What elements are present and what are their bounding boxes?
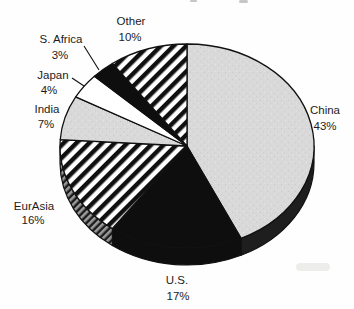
slice-label-india-pct: 7% <box>38 118 55 130</box>
scan-shadow-smudge <box>296 263 330 271</box>
slice-label-eurasia: EurAsia <box>14 200 55 212</box>
cropped-text-remnant-left <box>190 0 197 2</box>
slice-label-japan: Japan <box>37 69 68 81</box>
slice-label-japan-pct: 4% <box>41 84 58 96</box>
slice-label-us: U.S. <box>166 274 188 286</box>
slice-label-other: Other <box>117 15 146 27</box>
slice-label-china-pct: 43% <box>313 120 336 132</box>
slice-label-s-africa-pct: 3% <box>52 49 69 61</box>
cropped-text-remnant-right <box>239 0 248 3</box>
slice-label-india: India <box>35 103 61 115</box>
pie-slices <box>60 44 314 248</box>
pie-chart-figure: China43%U.S.17%EurAsia16%India7%Japan4%S… <box>0 0 354 309</box>
slice-label-eurasia-pct: 16% <box>21 214 44 226</box>
pie-chart: China43%U.S.17%EurAsia16%India7%Japan4%S… <box>0 0 354 309</box>
slice-label-china: China <box>310 104 341 116</box>
slice-label-s-africa: S. Africa <box>40 33 83 45</box>
slice-label-other-pct: 10% <box>118 31 141 43</box>
slice-label-us-pct: 17% <box>166 290 189 302</box>
